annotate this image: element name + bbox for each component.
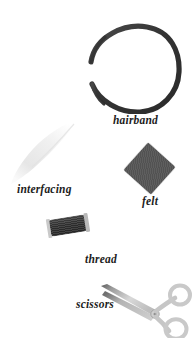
label-hairband: hairband [113, 115, 158, 127]
label-felt: felt [142, 196, 158, 208]
felt-square-icon [123, 142, 175, 194]
thread-spool-body [49, 214, 87, 236]
scissors-icon [100, 283, 193, 338]
craft-materials-illustration: hairband interfacing felt thread scissor… [0, 0, 193, 338]
label-interfacing: interfacing [17, 184, 72, 196]
label-scissors: scissors [76, 299, 114, 311]
hairband-ring-icon [85, 22, 182, 114]
thread-spool-icon [46, 214, 90, 237]
interfacing-sheet-icon [8, 118, 86, 190]
label-thread: thread [85, 254, 117, 266]
